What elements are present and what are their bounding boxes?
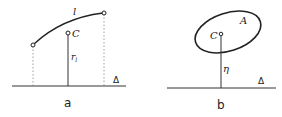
panel-b: A C η Δ b [167,3,276,112]
area-a-outline [190,3,266,60]
centroid-label-b: C [210,30,218,41]
centroid-point-b [219,32,223,36]
axis-label-b: Δ [258,76,265,86]
diagram-canvas: l C rl Δ a A C η Δ b [0,0,282,117]
centroid-label-a: C [72,28,80,39]
distance-label-a: rl [71,52,77,63]
curve-endpoint-left [31,43,35,47]
area-label: A [239,15,247,26]
distance-label-b: η [223,63,229,74]
axis-label-a: Δ [113,75,120,85]
panel-caption-b: b [217,98,225,112]
curve-endpoint-right [102,11,106,15]
panel-caption-a: a [64,96,71,110]
curve-label: l [73,6,76,17]
panel-a: l C rl Δ a [12,6,126,110]
centroid-point-a [66,31,70,35]
